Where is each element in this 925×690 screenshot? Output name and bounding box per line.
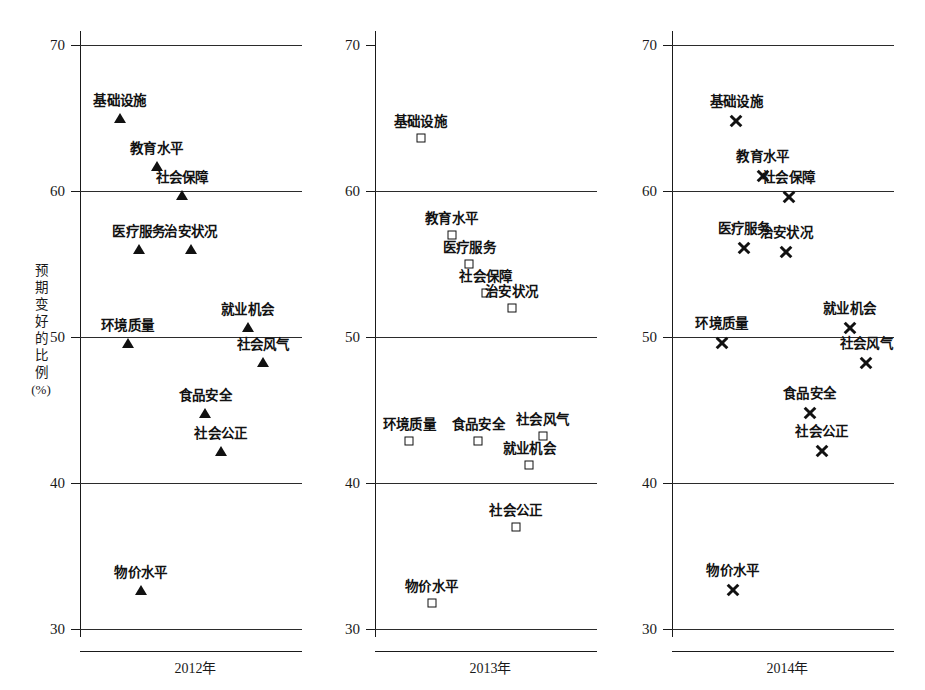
data-point-marker: [779, 245, 794, 260]
y-tick-60: [663, 191, 672, 192]
data-point-marker: [405, 436, 414, 445]
data-point-marker: [257, 357, 269, 367]
y-axis-line: [375, 31, 376, 637]
y-tick-label-70: 70: [334, 37, 360, 54]
data-point-label: 食品安全: [783, 382, 836, 402]
data-point-label: 教育水平: [425, 207, 478, 227]
data-point-label: 基础设施: [710, 90, 763, 110]
gridline-30: [375, 629, 597, 630]
data-point-marker: [525, 461, 534, 470]
y-tick-label-40: 40: [334, 475, 360, 492]
y-tick-label-60: 60: [39, 183, 65, 200]
data-point-label: 治安状况: [164, 220, 217, 240]
gridline-40: [672, 483, 894, 484]
data-point-label: 基础设施: [394, 110, 447, 130]
y-tick-label-30: 30: [334, 621, 360, 638]
y-tick-30: [71, 629, 80, 630]
y-axis-line: [80, 31, 81, 637]
data-point-label: 就业机会: [823, 297, 876, 317]
y-tick-50: [71, 337, 80, 338]
data-point-label: 物价水平: [405, 575, 458, 595]
gridline-60: [80, 191, 302, 192]
y-tick-70: [663, 45, 672, 46]
y-tick-60: [71, 191, 80, 192]
y-tick-40: [366, 483, 375, 484]
y-tick-50: [663, 337, 672, 338]
data-point-marker: [135, 585, 147, 595]
x-axis-label: 2012年: [174, 657, 216, 677]
gridline-30: [80, 629, 302, 630]
data-point-marker: [133, 244, 145, 254]
data-point-label: 就业机会: [503, 437, 556, 457]
data-point-marker: [814, 443, 829, 458]
y-axis-title-char-0: 预: [24, 262, 58, 279]
data-point-marker: [114, 113, 126, 123]
data-point-label: 环境质量: [383, 413, 436, 433]
y-tick-label-40: 40: [39, 475, 65, 492]
y-axis-title-char-6: 例: [24, 364, 58, 381]
data-point-label: 社会风气: [237, 333, 290, 353]
gridline-70: [80, 45, 302, 46]
y-tick-label-60: 60: [631, 183, 657, 200]
data-point-label: 社会公正: [489, 499, 542, 519]
data-point-label: 基础设施: [93, 89, 146, 109]
gridline-30: [672, 629, 894, 630]
data-point-label: 食品安全: [452, 413, 505, 433]
gridline-50: [375, 337, 597, 338]
data-point-marker: [176, 190, 188, 200]
data-point-marker: [122, 338, 134, 348]
data-point-label: 社会公正: [795, 420, 848, 440]
x-axis-line: [375, 651, 597, 652]
y-axis-title-char-1: 期: [24, 279, 58, 296]
y-tick-label-30: 30: [631, 621, 657, 638]
gridline-60: [375, 191, 597, 192]
data-point-label: 物价水平: [706, 559, 759, 579]
data-point-label: 环境质量: [101, 314, 154, 334]
y-tick-label-50: 50: [39, 329, 65, 346]
data-point-marker: [737, 240, 752, 255]
data-point-label: 物价水平: [114, 561, 167, 581]
data-point-marker: [781, 189, 796, 204]
data-point-label: 医疗服务: [443, 236, 496, 256]
data-point-marker: [507, 303, 516, 312]
gridline-40: [80, 483, 302, 484]
data-point-marker: [242, 322, 254, 332]
gridline-70: [672, 45, 894, 46]
y-tick-40: [663, 483, 672, 484]
x-axis-line: [80, 651, 302, 652]
data-point-label: 就业机会: [221, 298, 274, 318]
x-axis-line: [672, 651, 894, 652]
y-axis-line: [672, 31, 673, 637]
y-tick-label-30: 30: [39, 621, 65, 638]
data-point-marker: [511, 522, 520, 531]
gridline-40: [375, 483, 597, 484]
y-tick-50: [366, 337, 375, 338]
data-point-marker: [714, 335, 729, 350]
data-point-marker: [215, 446, 227, 456]
y-tick-label-70: 70: [631, 37, 657, 54]
y-tick-label-60: 60: [334, 183, 360, 200]
data-point-label: 社会公正: [194, 422, 247, 442]
data-point-marker: [474, 436, 483, 445]
y-tick-label-40: 40: [631, 475, 657, 492]
data-point-marker: [802, 405, 817, 420]
x-axis-label: 2013年: [469, 657, 511, 677]
y-tick-30: [663, 629, 672, 630]
y-axis-unit: (%): [24, 381, 58, 398]
data-point-label: 治安状况: [760, 221, 813, 241]
data-point-label: 社会保障: [156, 166, 209, 186]
y-tick-60: [366, 191, 375, 192]
y-axis-title-char-3: 好: [24, 313, 58, 330]
data-point-marker: [199, 408, 211, 418]
chart-figure: 预期变好的比例(%) 70605040302012年基础设施教育水平社会保障医疗…: [0, 0, 925, 690]
y-tick-label-70: 70: [39, 37, 65, 54]
y-tick-30: [366, 629, 375, 630]
y-tick-70: [366, 45, 375, 46]
data-point-label: 教育水平: [736, 145, 789, 165]
data-point-label: 环境质量: [695, 312, 748, 332]
data-point-label: 社会保障: [762, 166, 815, 186]
y-tick-label-50: 50: [631, 329, 657, 346]
x-axis-label: 2014年: [766, 657, 808, 677]
data-point-label: 社会风气: [840, 332, 893, 352]
data-point-label: 食品安全: [179, 384, 232, 404]
